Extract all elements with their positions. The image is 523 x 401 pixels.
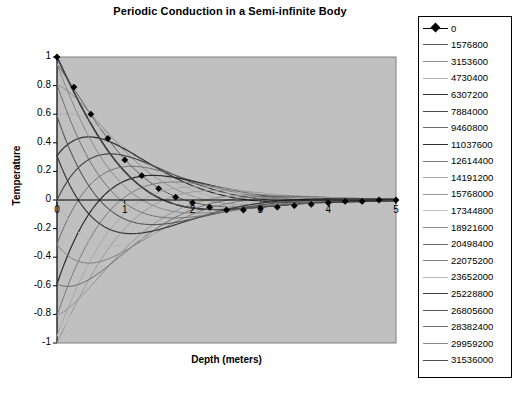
legend-item-label: 12614400 (449, 156, 493, 166)
legend-item-9460800[interactable]: 9460800 (422, 120, 509, 137)
legend-line-icon (423, 177, 448, 178)
legend-swatch-icon (422, 204, 449, 218)
legend-item-label: 1576800 (449, 40, 488, 50)
legend-item-7884000[interactable]: 7884000 (422, 103, 509, 120)
x-tick-label: 4 (308, 204, 348, 215)
legend-line-icon (423, 293, 448, 294)
legend-swatch-icon (422, 171, 449, 185)
legend-item-label: 11037600 (449, 140, 493, 150)
legend-item-label: 31536000 (449, 355, 493, 365)
legend-line-icon (423, 44, 448, 45)
legend-line-icon (423, 61, 448, 62)
legend-item-15768000[interactable]: 15768000 (422, 186, 509, 203)
legend-item-label: 18921600 (449, 223, 493, 233)
legend-swatch-icon (422, 237, 449, 251)
x-axis-title: Depth (meters) (57, 354, 396, 365)
legend-swatch-icon (422, 121, 449, 135)
legend-swatch-icon (422, 320, 449, 334)
y-tick-label: -1 (8, 336, 51, 347)
legend-line-icon (423, 360, 448, 361)
legend-item-22075200[interactable]: 22075200 (422, 252, 509, 269)
legend-item-18921600[interactable]: 18921600 (422, 219, 509, 236)
legend-item-label: 0 (449, 24, 456, 34)
legend-swatch-icon (422, 38, 449, 52)
legend-line-icon (423, 326, 448, 327)
legend-item-label: 26805600 (449, 306, 493, 316)
legend-item-11037600[interactable]: 11037600 (422, 136, 509, 153)
legend-item-label: 28382400 (449, 322, 493, 332)
legend-swatch-icon (422, 187, 449, 201)
legend-line-icon (423, 260, 448, 261)
legend-item-label: 9460800 (449, 123, 488, 133)
legend-swatch-icon (422, 303, 449, 317)
legend-item-label: 6307200 (449, 90, 488, 100)
legend-item-label: 22075200 (449, 256, 493, 266)
legend-swatch-icon (422, 154, 449, 168)
legend-item-label: 14191200 (449, 173, 493, 183)
legend-item-29959200[interactable]: 29959200 (422, 335, 509, 352)
legend-swatch-icon (422, 104, 449, 118)
legend-item-25228800[interactable]: 25228800 (422, 286, 509, 303)
legend-line-icon (423, 277, 448, 278)
y-tick-label: -0.6 (8, 279, 51, 290)
legend-swatch-icon (422, 137, 449, 151)
legend-swatch-icon (422, 54, 449, 68)
legend-line-icon (423, 343, 448, 344)
legend-item-label: 7884000 (449, 107, 488, 117)
legend-line-icon (423, 127, 448, 128)
legend-item-31536000[interactable]: 31536000 (422, 352, 509, 369)
x-tick-label: 3 (240, 204, 280, 215)
legend-swatch-icon (422, 71, 449, 85)
legend-item-6307200[interactable]: 6307200 (422, 86, 509, 103)
legend-line-icon (423, 144, 448, 145)
legend-item-17344800[interactable]: 17344800 (422, 203, 509, 220)
legend-swatch-icon (422, 88, 449, 102)
x-tick-label: 1 (105, 204, 145, 215)
legend-item-label: 20498400 (449, 239, 493, 249)
legend-line-icon (423, 78, 448, 79)
legend-line-icon (423, 210, 448, 211)
legend-line-icon (423, 244, 448, 245)
chart-legend: 0157680031536004730400630720078840009460… (418, 16, 512, 378)
legend-swatch-icon (422, 254, 449, 268)
legend-item-14191200[interactable]: 14191200 (422, 169, 509, 186)
plot-svg (0, 0, 410, 380)
legend-item-label: 23652000 (449, 272, 493, 282)
legend-item-label: 3153600 (449, 57, 488, 67)
legend-line-icon (423, 194, 448, 195)
legend-item-28382400[interactable]: 28382400 (422, 319, 509, 336)
legend-item-23652000[interactable]: 23652000 (422, 269, 509, 286)
legend-line-icon (423, 111, 448, 112)
legend-swatch-icon (422, 220, 449, 234)
x-tick-label: 0 (37, 204, 77, 215)
legend-item-0[interactable]: 0 (422, 20, 509, 37)
chart-container: Periodic Conduction in a Semi-infinite B… (0, 0, 523, 401)
y-tick-label: -0.4 (8, 250, 51, 261)
y-axis-title: Temperature (11, 128, 22, 224)
legend-item-label: 25228800 (449, 289, 493, 299)
legend-item-20498400[interactable]: 20498400 (422, 236, 509, 253)
legend-swatch-icon (422, 353, 449, 367)
y-tick-label: 0.8 (8, 79, 51, 90)
legend-diamond-marker-icon (431, 22, 441, 32)
legend-swatch-icon (422, 337, 449, 351)
legend-item-label: 4730400 (449, 73, 488, 83)
legend-swatch-icon (422, 287, 449, 301)
legend-line-icon (423, 310, 448, 311)
legend-item-1576800[interactable]: 1576800 (422, 37, 509, 54)
legend-item-3153600[interactable]: 3153600 (422, 53, 509, 70)
legend-item-label: 29959200 (449, 339, 493, 349)
legend-line-icon (423, 227, 448, 228)
y-tick-label: -0.8 (8, 307, 51, 318)
legend-item-label: 15768000 (449, 189, 493, 199)
legend-item-12614400[interactable]: 12614400 (422, 153, 509, 170)
legend-item-26805600[interactable]: 26805600 (422, 302, 509, 319)
x-tick-label: 2 (173, 204, 213, 215)
plot-area-wrapper: 10.80.60.40.20-0.2-0.4-0.6-0.8-1 012345 … (0, 0, 410, 380)
legend-item-label: 17344800 (449, 206, 493, 216)
legend-line-icon (423, 94, 448, 95)
legend-item-4730400[interactable]: 4730400 (422, 70, 509, 87)
legend-swatch-icon (422, 21, 449, 35)
legend-swatch-icon (422, 270, 449, 284)
y-tick-label: 0.6 (8, 107, 51, 118)
